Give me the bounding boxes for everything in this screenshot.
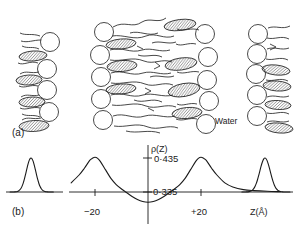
acyl-chain bbox=[21, 40, 41, 42]
head-group-circle bbox=[95, 23, 114, 42]
lipid-tail-ellipse bbox=[163, 18, 196, 33]
lipid-tail-ellipse bbox=[167, 81, 201, 99]
lipid-tail-ellipse bbox=[265, 100, 291, 110]
head-group-circle bbox=[91, 46, 110, 65]
x-axis-title: Z(Å) bbox=[250, 207, 268, 217]
left-satellite-peak-curve bbox=[10, 158, 53, 192]
acyl-chain bbox=[110, 49, 170, 51]
acyl-chain bbox=[138, 55, 162, 57]
lipid-tail-ellipse bbox=[19, 97, 45, 108]
panel-label-a: (a) bbox=[12, 127, 24, 138]
acyl-chain bbox=[267, 48, 289, 49]
y-tick-label-0335: 0·335 bbox=[153, 186, 177, 197]
chain-kink bbox=[137, 46, 143, 49]
right-satellite-peak-curve bbox=[242, 158, 290, 192]
x-tick-label-minus20: −20 bbox=[84, 206, 100, 217]
water-label: Water bbox=[215, 116, 238, 126]
panel-a-schematic: Water (a) bbox=[12, 18, 293, 138]
figure-container: Water (a) ρ(Z) 0·435 0·335 −20 +20 Z(Å) … bbox=[0, 0, 301, 237]
head-group-circle bbox=[248, 86, 267, 105]
left-satellite-peak-group bbox=[6, 158, 63, 192]
lipid-tail-ellipse bbox=[265, 122, 294, 134]
left-monolayer bbox=[16, 33, 60, 133]
acyl-chain bbox=[20, 108, 40, 109]
head-group-circle bbox=[249, 25, 268, 44]
acyl-chain bbox=[18, 62, 38, 64]
acyl-chain bbox=[130, 32, 158, 34]
lipid-tail-ellipse bbox=[16, 74, 42, 85]
right-monolayer bbox=[247, 25, 294, 135]
acyl-chain bbox=[177, 104, 197, 105]
lipid-tail-ellipse bbox=[106, 83, 137, 95]
lipid-bilayer-density-figure: Water (a) ρ(Z) 0·435 0·335 −20 +20 Z(Å) … bbox=[0, 0, 301, 237]
acyl-chain bbox=[21, 95, 39, 97]
head-group-circle bbox=[197, 115, 216, 134]
acyl-chain bbox=[22, 114, 40, 117]
chain-kink bbox=[145, 88, 151, 94]
head-group-circle bbox=[92, 68, 111, 87]
lipid-tail-ellipse bbox=[164, 56, 197, 72]
head-group-circle bbox=[196, 25, 215, 44]
acyl-chain bbox=[126, 131, 160, 133]
acyl-chain bbox=[266, 58, 288, 60]
acyl-chain bbox=[176, 44, 196, 45]
acyl-chain bbox=[267, 121, 289, 122]
x-tick-label-plus20: +20 bbox=[191, 206, 207, 217]
chain-kink bbox=[270, 44, 276, 50]
acyl-chain bbox=[134, 100, 162, 102]
head-group-circle bbox=[200, 92, 219, 111]
head-group-circle bbox=[248, 107, 267, 126]
acyl-chain bbox=[150, 76, 174, 77]
acyl-chain bbox=[114, 125, 178, 128]
acyl-chain bbox=[267, 112, 289, 114]
acyl-chain bbox=[22, 118, 41, 120]
panel-b-density-profile: ρ(Z) 0·435 0·335 −20 +20 Z(Å) (b) bbox=[6, 144, 293, 224]
acyl-chain bbox=[267, 96, 289, 97]
chain-kink bbox=[154, 62, 160, 69]
head-group-circle bbox=[94, 111, 113, 130]
acyl-chain bbox=[112, 35, 174, 38]
acyl-chain bbox=[20, 72, 39, 74]
lipid-tail-ellipse bbox=[263, 80, 292, 92]
acyl-chain bbox=[113, 18, 166, 27]
acyl-chain bbox=[268, 26, 290, 28]
lipid-tail-ellipse bbox=[107, 59, 138, 72]
chain-kink bbox=[148, 108, 154, 111]
acyl-chain bbox=[19, 86, 38, 87]
head-group-circle bbox=[248, 45, 267, 64]
acyl-chain bbox=[22, 46, 39, 49]
lipid-tail-ellipse bbox=[172, 106, 203, 120]
acyl-chain bbox=[111, 72, 171, 74]
acyl-chain bbox=[112, 104, 176, 107]
acyl-chain bbox=[113, 115, 175, 117]
y-tick-label-0435: 0·435 bbox=[154, 153, 178, 164]
head-group-circle bbox=[38, 60, 57, 79]
acyl-chain bbox=[267, 37, 289, 39]
lipid-tail-ellipse bbox=[262, 64, 291, 77]
center-bilayer bbox=[91, 18, 219, 134]
acyl-chain bbox=[177, 72, 199, 73]
head-group-circle bbox=[199, 48, 218, 67]
acyl-chain bbox=[20, 33, 40, 36]
head-group-circle bbox=[41, 33, 60, 52]
head-group-circle bbox=[40, 103, 59, 122]
panel-label-b: (b) bbox=[12, 206, 24, 217]
head-group-circle bbox=[198, 71, 217, 90]
acyl-chain bbox=[152, 42, 176, 43]
acyl-chain bbox=[111, 94, 173, 96]
head-group-circle bbox=[38, 81, 57, 100]
